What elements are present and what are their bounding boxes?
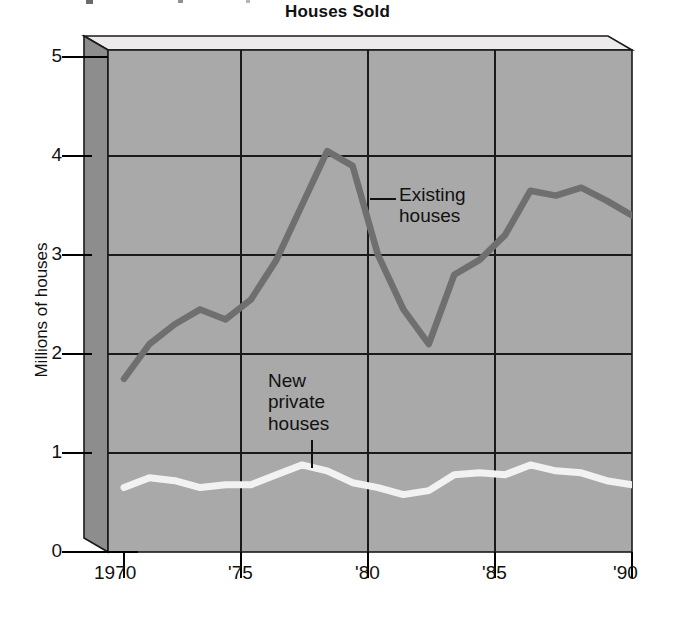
y-tick-label-0: 0	[26, 540, 62, 562]
x-tick-label-90: '90	[613, 562, 638, 584]
annotation-new-private-houses-line1: New	[268, 370, 329, 391]
box-top-face	[84, 36, 632, 50]
annotation-new-private-houses-line3: houses	[268, 413, 329, 434]
chart-canvas	[0, 0, 675, 639]
annotation-existing-houses: Existing houses	[399, 184, 466, 227]
page-title: Houses Sold	[0, 2, 675, 22]
x-tick-label-75: '75	[228, 562, 253, 584]
x-tick-label-1970: 1970	[94, 562, 136, 584]
y-tick-label-4: 4	[26, 144, 62, 166]
plot-background	[108, 50, 632, 552]
annotation-existing-houses-line2: houses	[399, 205, 466, 226]
y-tick-label-5: 5	[26, 45, 62, 67]
y-axis-title: Millions of houses	[32, 210, 52, 410]
chart-figure: Houses Sold	[0, 0, 675, 639]
annotation-existing-houses-line1: Existing	[399, 184, 466, 205]
x-tick-label-85: '85	[482, 562, 507, 584]
box-left-face	[84, 36, 108, 552]
x-tick-label-80: '80	[355, 562, 380, 584]
annotation-new-private-houses: New private houses	[268, 370, 329, 434]
y-tick-label-1: 1	[26, 441, 62, 463]
annotation-new-private-houses-line2: private	[268, 391, 329, 412]
